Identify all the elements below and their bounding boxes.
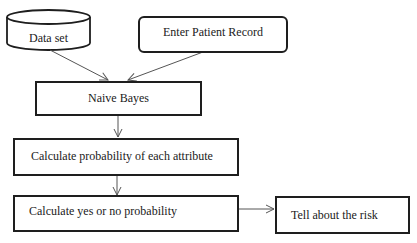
node-calc-yes-no-probability: Calculate yes or no probability <box>13 195 239 232</box>
node-label: Calculate yes or no probability <box>29 204 177 219</box>
node-label: Calculate probability of each attribute <box>31 149 213 164</box>
edge-patient-to-naive <box>128 52 203 80</box>
node-tell-about-risk: Tell about the risk <box>275 196 410 234</box>
node-label: Tell about the risk <box>291 208 378 223</box>
edge-dataset-to-naive <box>50 50 108 80</box>
node-label: Naive Bayes <box>88 91 149 106</box>
node-dataset-label: Data set <box>7 31 90 46</box>
node-label: Enter Patient Record <box>163 25 263 40</box>
node-enter-patient-record: Enter Patient Record <box>138 16 288 53</box>
node-calc-attribute-probability: Calculate probability of each attribute <box>13 138 239 176</box>
node-naive-bayes: Naive Bayes <box>35 81 202 116</box>
